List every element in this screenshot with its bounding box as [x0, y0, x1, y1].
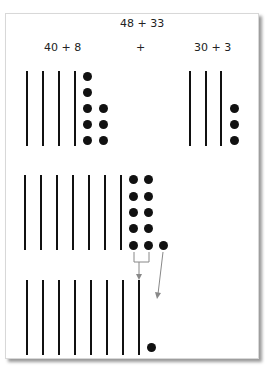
ten-stick — [122, 280, 124, 355]
one-dot — [147, 343, 156, 352]
ten-stick — [138, 280, 140, 355]
ten-stick — [106, 280, 108, 355]
ten-stick — [58, 280, 60, 355]
ten-stick — [42, 280, 44, 355]
regroup-arrows — [0, 0, 265, 366]
ten-stick — [74, 280, 76, 355]
ten-stick — [26, 280, 28, 355]
ten-stick — [90, 280, 92, 355]
